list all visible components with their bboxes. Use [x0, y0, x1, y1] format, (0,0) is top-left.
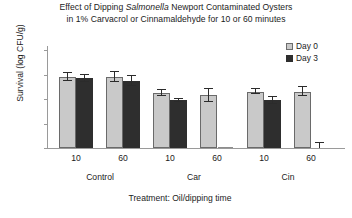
- bar-car-10-day3: [170, 100, 187, 148]
- errorbar-cap-bottom-car-10-day3: [174, 101, 183, 102]
- errorbar-cap-top-control-10-day3: [80, 74, 89, 75]
- errorbar-cap-bottom-control-60-day3: [127, 85, 136, 86]
- bar-cin-10-day3: [264, 100, 281, 148]
- errorbar-cap-top-control-60-day3: [127, 75, 136, 76]
- y-tick-mark-2: [44, 124, 47, 125]
- errorbar-cap-top-cin-60-day0: [298, 86, 307, 87]
- chart-figure: Effect of Dipping Salmonella Newport Con…: [0, 0, 352, 218]
- bar-control-10-day3: [76, 78, 93, 148]
- y-tick-mark-4: [44, 99, 47, 100]
- errorbar-cap-bottom-control-10-day0: [63, 80, 72, 81]
- x-group-label-car: Car: [149, 172, 239, 182]
- y-axis-line: [47, 46, 48, 148]
- errorbar-cap-top-car-10-day0: [157, 89, 166, 90]
- bar-car-60-day3: [217, 147, 234, 148]
- errorbar-cap-top-car-60-day0: [204, 88, 213, 89]
- bar-cin-10-day0: [247, 92, 264, 148]
- x-group-label-control: Control: [55, 172, 145, 182]
- errorbar-cap-bottom-cin-60-day0: [298, 95, 307, 96]
- chart-title-part-post: Newport Contaminated Oysters: [169, 2, 293, 12]
- errorbar-cap-top-cin-60-day3: [315, 142, 324, 143]
- bar-control-60-day0: [106, 77, 123, 148]
- errorbar-cap-top-car-10-day3: [174, 98, 183, 99]
- x-tick-label-car-10: 10: [150, 153, 190, 163]
- errorbar-cap-top-control-10-day0: [63, 72, 72, 73]
- errorbar-cap-bottom-control-10-day3: [80, 81, 89, 82]
- y-tick-mark-8: [44, 50, 47, 51]
- y-axis-title: Survival (log CFU/g): [15, 11, 25, 115]
- bar-stub-car-60-day3: [218, 147, 233, 148]
- errorbar-cap-bottom-car-10-day0: [157, 95, 166, 96]
- x-group-label-cin: Cin: [243, 172, 333, 182]
- y-tick-mark-6: [44, 75, 47, 76]
- errorbar-cap-top-control-60-day0: [110, 71, 119, 72]
- x-axis-title: Treatment: Oil/dipping time: [20, 193, 340, 203]
- x-tick-label-car-60: 60: [197, 153, 237, 163]
- plot-area: [47, 46, 345, 148]
- bar-cin-60-day0: [294, 92, 311, 148]
- errorbar-cap-top-cin-10-day3: [268, 96, 277, 97]
- errorbar-cap-bottom-car-60-day0: [204, 101, 213, 102]
- chart-title-part-pre: Effect of Dipping: [60, 2, 126, 12]
- errorbar-cap-top-cin-10-day0: [251, 88, 260, 89]
- bar-control-10-day0: [59, 77, 76, 148]
- bar-car-10-day0: [153, 93, 170, 148]
- errorbar-cap-bottom-cin-10-day0: [251, 93, 260, 94]
- x-tick-label-cin-60: 60: [291, 153, 331, 163]
- bar-car-60-day0: [200, 95, 217, 148]
- errorbar-cap-bottom-control-60-day0: [110, 81, 119, 82]
- chart-title: Effect of Dipping Salmonella Newport Con…: [0, 1, 352, 26]
- chart-title-part-italic: Salmonella: [126, 2, 169, 12]
- x-tick-label-control-60: 60: [103, 153, 143, 163]
- x-tick-label-cin-10: 10: [244, 153, 284, 163]
- errorbar-cin-60-day3: [319, 143, 320, 149]
- y-tick-mark-0: [44, 148, 47, 149]
- x-tick-label-control-10: 10: [56, 153, 96, 163]
- chart-title-line-1: Effect of Dipping Salmonella Newport Con…: [0, 1, 352, 13]
- bar-control-60-day3: [123, 81, 140, 148]
- chart-title-line-2: in 1% Carvacrol or Cinnamaldehyde for 10…: [0, 13, 352, 25]
- errorbar-cap-bottom-cin-10-day3: [268, 103, 277, 104]
- errorbar-car-60-day0: [208, 89, 209, 102]
- x-axis-line: [47, 148, 345, 149]
